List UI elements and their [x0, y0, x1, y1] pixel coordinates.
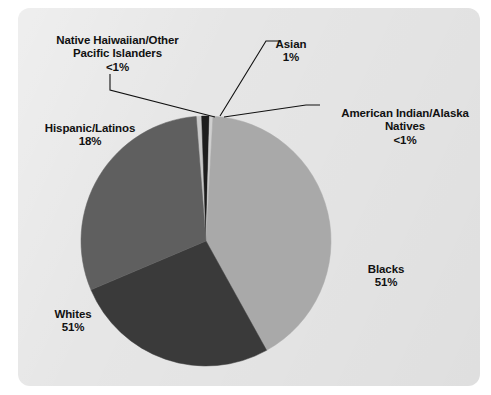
leader-line-aian: [224, 105, 320, 117]
slice-label-percent: 1%: [246, 51, 336, 65]
slice-label-percent: 51%: [18, 321, 128, 335]
slice-label-percent: <1%: [30, 61, 205, 75]
slice-label-line1: Native Haiwaiian/Other: [56, 34, 178, 46]
slice-label-line2: Pacific Islanders: [73, 47, 162, 59]
figure-container: Native Haiwaiian/Other Pacific Islanders…: [0, 0, 491, 395]
slice-label-line2: Natives: [385, 120, 425, 132]
slice-label-line1: Blacks: [368, 263, 404, 275]
slice-label-line1: Hispanic/Latinos: [45, 122, 135, 134]
slice-label-american-indian-alaska-native: American Indian/Alaska Natives <1%: [322, 93, 488, 161]
slice-label-blacks: Blacks 51%: [336, 249, 436, 303]
slice-label-percent: 18%: [16, 135, 164, 149]
slice-label-line1: American Indian/Alaska: [341, 107, 469, 119]
slice-label-asian: Asian 1%: [246, 24, 336, 78]
slice-label-native-hawaiian: Native Haiwaiian/Other Pacific Islanders…: [30, 20, 205, 88]
slice-label-line1: Asian: [276, 38, 307, 50]
slice-label-hispanic-latinos: Hispanic/Latinos 18%: [16, 108, 164, 162]
slice-label-line1: Whites: [54, 308, 91, 320]
slice-label-percent: <1%: [322, 134, 488, 148]
slice-label-whites: Whites 51%: [18, 294, 128, 348]
slice-label-percent: 51%: [336, 276, 436, 290]
